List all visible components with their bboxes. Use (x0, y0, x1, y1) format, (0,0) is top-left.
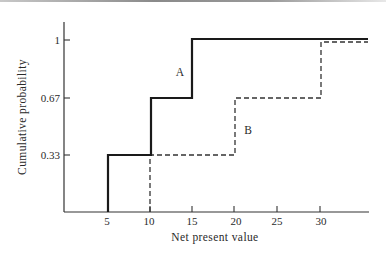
x-tick-label: 20 (231, 215, 243, 227)
x-tick-label: 10 (144, 215, 156, 227)
series-a-line (108, 39, 368, 212)
x-tick-label: 15 (187, 215, 199, 227)
series-b-label: B (244, 124, 252, 136)
cumulative-probability-chart: 1 0.67 0.33 5 10 15 20 25 30 Net present… (0, 0, 386, 257)
y-tick-labels: 1 0.67 0.33 (41, 34, 61, 161)
y-axis-label: Cumulative probability (16, 59, 29, 175)
y-tick-label: 0.33 (41, 149, 61, 161)
y-tick-label: 0.67 (41, 92, 61, 104)
y-tick-label: 1 (55, 34, 61, 46)
axes (64, 22, 369, 212)
x-tick-labels: 5 10 15 20 25 30 (104, 215, 327, 227)
x-axis-label: Net present value (171, 231, 258, 244)
y-ticks (64, 40, 70, 155)
x-tick-label: 25 (272, 215, 284, 227)
x-ticks (108, 206, 320, 212)
series-a-label: A (176, 66, 185, 78)
x-tick-label: 30 (316, 215, 328, 227)
x-tick-label: 5 (104, 215, 110, 227)
